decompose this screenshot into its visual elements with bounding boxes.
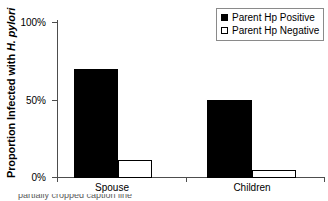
y-axis-label-species: H. pylori: [5, 7, 17, 50]
legend-swatch-hollow-square-icon: [221, 27, 228, 34]
bar-spouse-parent-hp-negative: [118, 160, 152, 178]
legend-label-parent-hp-negative: Parent Hp Negative: [232, 26, 319, 36]
x-tick-start: [57, 177, 58, 182]
y-axis-line: [57, 20, 58, 178]
legend-item-parent-hp-negative: Parent Hp Negative: [221, 24, 319, 37]
cropped-caption-text: partially cropped caption line: [18, 194, 132, 200]
y-axis-label-prefix: Proportion Infected with: [5, 51, 17, 178]
x-category-label-spouse: Spouse: [82, 183, 142, 193]
y-tick-label-50: 50%: [6, 96, 46, 106]
cropped-caption: partially cropped caption line: [0, 194, 328, 201]
chart-legend: Parent Hp Positive Parent Hp Negative: [216, 8, 324, 41]
bar-spouse-parent-hp-positive: [74, 69, 118, 178]
y-tick-label-0: 0%: [6, 173, 46, 183]
chart-figure: Proportion Infected with H. pylori 100% …: [0, 0, 328, 201]
x-tick-separator: [186, 177, 187, 182]
bar-children-parent-hp-negative: [252, 170, 296, 178]
y-tick-100: [52, 22, 58, 23]
y-tick-50: [52, 100, 58, 101]
legend-swatch-filled-square-icon: [221, 14, 228, 21]
x-tick-end: [324, 177, 325, 182]
legend-item-parent-hp-positive: Parent Hp Positive: [221, 11, 319, 24]
bar-children-parent-hp-positive: [207, 100, 252, 178]
legend-label-parent-hp-positive: Parent Hp Positive: [232, 13, 315, 23]
x-category-label-children: Children: [222, 183, 282, 193]
y-tick-label-100: 100%: [6, 18, 46, 28]
